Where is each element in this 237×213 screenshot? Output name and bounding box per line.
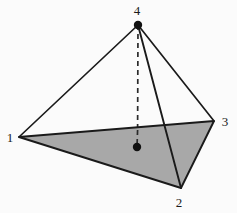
tetrahedron-diagram: 1 2 3 4 [0,0,237,213]
vertex-label-2: 2 [176,195,183,210]
vertex-4-point [134,21,142,29]
centroid-point [133,143,141,151]
vertex-label-1: 1 [7,130,14,145]
tetrahedron-figure: 1 2 3 4 [0,0,237,213]
vertex-label-4: 4 [134,3,141,18]
vertex-label-3: 3 [222,114,229,129]
